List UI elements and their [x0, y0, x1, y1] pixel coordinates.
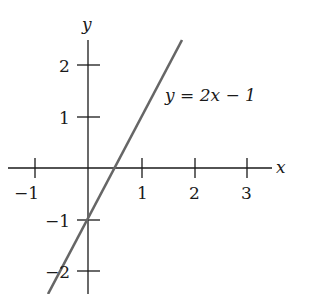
x-tick-label-2: 2 [189, 183, 200, 203]
y-tick-label-neg2: −2 [45, 262, 70, 282]
x-tick-label-3: 3 [241, 183, 252, 203]
y-axis-label: y [81, 14, 92, 34]
x-tick-label-1: 1 [137, 183, 148, 203]
y-tick-label-1: 1 [59, 108, 70, 128]
x-axis-label: x [276, 157, 286, 177]
y-tick-label-2: 2 [59, 56, 70, 76]
x-tick-label-neg1: −1 [14, 183, 39, 203]
line-equation-label: y = 2x − 1 [164, 85, 256, 105]
series-line [48, 40, 182, 294]
y-tick-label-neg1: −1 [45, 211, 70, 231]
line-chart: y x −1 1 2 3 2 1 −1 −2 y = 2x − 1 [0, 0, 315, 294]
